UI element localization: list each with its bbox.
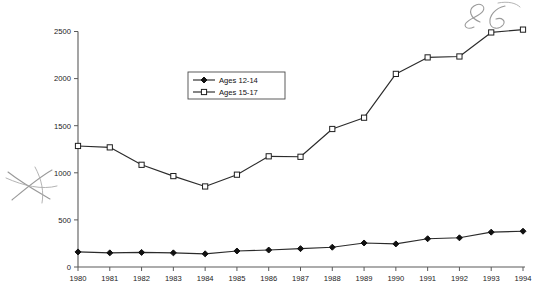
data-point-marker[interactable]: [139, 162, 144, 167]
data-point-marker[interactable]: [329, 244, 335, 250]
line-chart: 0500100015002000250019801981198219831984…: [0, 0, 541, 292]
pencil-x-mark-left-stroke2: [12, 170, 52, 200]
data-point-marker[interactable]: [266, 154, 271, 159]
data-point-marker[interactable]: [234, 248, 240, 254]
x-tick-label: 1989: [356, 274, 373, 283]
data-point-marker[interactable]: [456, 235, 462, 241]
data-point-marker[interactable]: [203, 184, 208, 189]
handwritten-mark-top-right-3: [498, 2, 520, 7]
data-point-marker[interactable]: [488, 229, 494, 235]
data-point-marker[interactable]: [202, 251, 208, 257]
chart-canvas: 0500100015002000250019801981198219831984…: [0, 0, 541, 292]
data-point-marker[interactable]: [171, 173, 176, 178]
data-point-marker[interactable]: [75, 143, 80, 148]
x-tick-label: 1987: [292, 274, 309, 283]
y-tick-label: 2500: [54, 27, 71, 36]
x-tick-label: 1991: [419, 274, 436, 283]
x-tick-label: 1985: [228, 274, 245, 283]
x-tick-label: 1990: [387, 274, 404, 283]
y-tick-label: 500: [58, 216, 71, 225]
pencil-x-mark-left-stroke3: [6, 178, 57, 188]
x-tick-label: 1988: [324, 274, 341, 283]
legend-marker: [201, 89, 206, 94]
x-tick-label: 1980: [70, 274, 87, 283]
handwritten-mark-top-right: [465, 4, 484, 28]
x-tick-label: 1981: [101, 274, 118, 283]
data-point-marker[interactable]: [298, 246, 304, 252]
y-tick-label: 1000: [54, 169, 71, 178]
data-point-marker[interactable]: [457, 54, 462, 59]
x-tick-label: 1994: [515, 274, 532, 283]
x-tick-label: 1982: [133, 274, 150, 283]
y-tick-label: 2000: [54, 74, 71, 83]
data-point-marker[interactable]: [298, 154, 303, 159]
pencil-x-mark-left-stroke4: [35, 167, 43, 203]
x-tick-label: 1986: [260, 274, 277, 283]
data-point-marker[interactable]: [139, 249, 145, 255]
data-point-marker[interactable]: [361, 115, 366, 120]
data-point-marker[interactable]: [520, 228, 526, 234]
data-point-marker[interactable]: [170, 250, 176, 256]
data-point-marker[interactable]: [425, 236, 431, 242]
series-line-2: [78, 30, 523, 187]
x-tick-label: 1992: [451, 274, 468, 283]
data-point-marker[interactable]: [107, 145, 112, 150]
data-point-marker[interactable]: [234, 172, 239, 177]
x-tick-label: 1983: [165, 274, 182, 283]
legend-label-2: Ages 15-17: [219, 88, 258, 97]
data-point-marker[interactable]: [520, 27, 525, 32]
data-point-marker[interactable]: [107, 250, 113, 256]
data-point-marker[interactable]: [393, 71, 398, 76]
x-tick-label: 1993: [483, 274, 500, 283]
y-tick-label: 0: [67, 263, 71, 272]
data-point-marker[interactable]: [393, 241, 399, 247]
data-point-marker[interactable]: [266, 247, 272, 253]
legend-label-1: Ages 12-14: [219, 76, 258, 85]
data-point-marker[interactable]: [75, 249, 81, 255]
data-point-marker[interactable]: [330, 126, 335, 131]
data-point-marker[interactable]: [425, 55, 430, 60]
data-point-marker[interactable]: [361, 240, 367, 246]
x-tick-label: 1984: [197, 274, 214, 283]
handwritten-mark-top-right-2: [490, 6, 505, 28]
data-point-marker[interactable]: [489, 30, 494, 35]
y-tick-label: 1500: [54, 122, 71, 131]
